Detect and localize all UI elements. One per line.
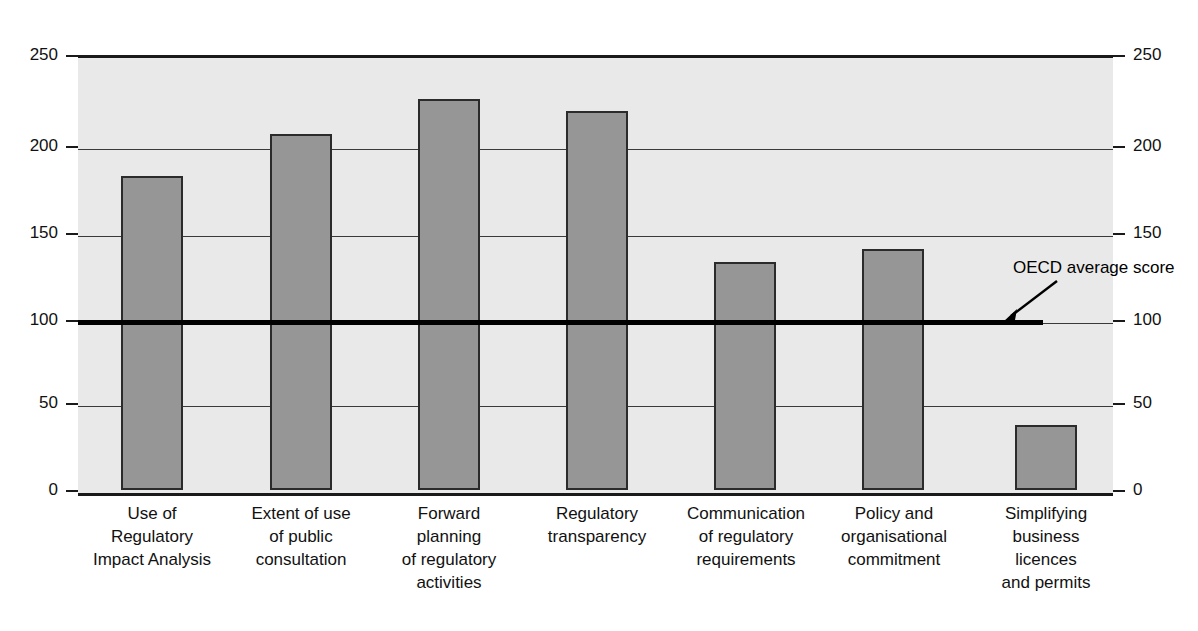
tick-stub-right-250	[1113, 55, 1125, 57]
tick-stub-right-50	[1113, 403, 1125, 405]
x-axis-label-0-line-1: Regulatory	[84, 525, 220, 548]
x-axis-label-5-line-2: commitment	[823, 548, 965, 571]
x-axis-label-0: Use of Regulatory Impact Analysis	[84, 502, 220, 571]
x-axis-label-4-line-0: Communication	[673, 502, 819, 525]
tick-stub-left-250	[66, 55, 78, 57]
bar-communication-of-regulatory-requirements	[714, 262, 776, 490]
x-axis-label-5-line-0: Policy and	[823, 502, 965, 525]
y-axis-right-label-250: 250	[1133, 46, 1161, 63]
oecd-average-label: OECD average score	[1013, 258, 1175, 278]
y-axis-right-label-200: 200	[1133, 137, 1161, 154]
bar-regulatory-transparency	[566, 111, 628, 490]
tick-stub-left-0	[66, 490, 78, 492]
x-axis-label-5-line-1: organisational	[823, 525, 965, 548]
x-axis-label-1-line-0: Extent of use	[233, 502, 369, 525]
x-axis-label-1-line-2: consultation	[233, 548, 369, 571]
x-axis-label-0-line-0: Use of	[84, 502, 220, 525]
tick-stub-left-100	[66, 320, 78, 322]
x-axis-label-2-line-2: of regulatory	[381, 548, 517, 571]
tick-stub-left-150	[66, 233, 78, 235]
y-axis-left-label-0: 0	[49, 481, 58, 498]
y-axis-left-label-100: 100	[30, 311, 58, 328]
y-axis-right-label-150: 150	[1133, 224, 1161, 241]
x-axis-label-4: Communication of regulatory requirements	[673, 502, 819, 571]
tick-stub-right-150	[1113, 233, 1125, 235]
x-axis-category-labels: Use of Regulatory Impact Analysis Extent…	[78, 502, 1113, 622]
y-axis-left-label-200: 200	[30, 137, 58, 154]
y-axis-left-label-50: 50	[39, 394, 58, 411]
tick-stub-right-100	[1113, 320, 1125, 322]
x-axis-label-0-line-2: Impact Analysis	[84, 548, 220, 571]
bar-policy-and-organisational-commitment	[862, 249, 924, 490]
y-axis-left-label-150: 150	[30, 224, 58, 241]
x-axis-label-2-line-1: planning	[381, 525, 517, 548]
tick-stub-left-200	[66, 146, 78, 148]
bar-forward-planning-of-regulatory-activities	[418, 99, 480, 490]
oecd-average-arrow	[995, 276, 1065, 326]
x-axis-label-6-line-1: business	[976, 525, 1116, 548]
tick-stub-left-50	[66, 403, 78, 405]
bars-layer	[78, 55, 1113, 490]
x-axis-label-1: Extent of use of public consultation	[233, 502, 369, 571]
y-axis-left-label-250: 250	[30, 46, 58, 63]
x-axis-label-2-line-0: Forward	[381, 502, 517, 525]
x-axis-label-2-line-3: activities	[381, 571, 517, 594]
bar-extent-of-use-of-public-consultation	[270, 134, 332, 490]
x-axis-label-6-line-0: Simplifying	[976, 502, 1116, 525]
x-axis-label-4-line-1: of regulatory	[673, 525, 819, 548]
x-axis-label-2: Forward planning of regulatory activitie…	[381, 502, 517, 594]
x-axis-label-4-line-2: requirements	[673, 548, 819, 571]
x-axis-label-6: Simplifying business licences and permit…	[976, 502, 1116, 594]
bar-use-of-regulatory-impact-analysis	[121, 176, 183, 490]
y-axis-right-label-0: 0	[1133, 481, 1142, 498]
tick-stub-right-0	[1113, 490, 1125, 492]
y-axis-right-label-50: 50	[1133, 394, 1152, 411]
x-axis-label-3: Regulatory transparency	[529, 502, 665, 548]
tick-stub-right-200	[1113, 146, 1125, 148]
bar-simplifying-business-licences-and-permits	[1015, 425, 1077, 490]
x-axis-label-6-line-3: and permits	[976, 571, 1116, 594]
x-axis-label-1-line-1: of public	[233, 525, 369, 548]
x-axis-label-3-line-1: transparency	[529, 525, 665, 548]
y-axis-right-label-100: 100	[1133, 311, 1161, 328]
x-axis-label-3-line-0: Regulatory	[529, 502, 665, 525]
x-axis-label-6-line-2: licences	[976, 548, 1116, 571]
oecd-average-line	[78, 320, 1043, 325]
bar-chart: OECD average score 250 200 150 100 50 0 …	[0, 0, 1198, 631]
x-axis-label-5: Policy and organisational commitment	[823, 502, 965, 571]
